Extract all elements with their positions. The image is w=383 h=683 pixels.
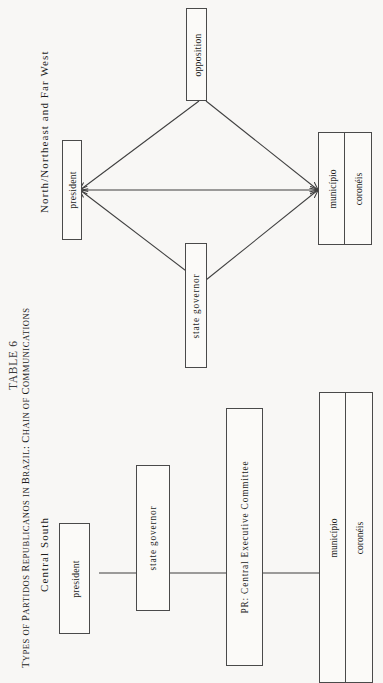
node-label: opposition [191, 33, 202, 76]
node-label: coronéis [353, 172, 364, 205]
edge-state-governor-municipio [206, 190, 318, 280]
title-seg-12: OMMUNICATIONS [21, 308, 31, 388]
node-cell-coroneis[interactable]: coronéis [345, 392, 373, 683]
node-cell-coroneis[interactable]: coronéis [344, 132, 372, 245]
section-label-central-south: Central South [39, 517, 50, 592]
section-label-north-northeast-far-west: North/Northeast and Far West [39, 50, 50, 213]
node-label: PR: Central Executive Committee [240, 460, 250, 613]
scanned-figure-page: TABLE 6 TYPES OF PARTIDOS REPUBLICANOS I… [0, 0, 383, 683]
figure-title: TYPES OF PARTIDOS REPUBLICANOS IN BRAZIL… [21, 308, 32, 668]
title-seg-1: T [20, 661, 31, 668]
node-label: state governor [148, 506, 158, 571]
title-seg-7: B [20, 477, 31, 484]
node-box-state-governor-central-south[interactable]: state governor [136, 465, 170, 611]
node-box-president-north[interactable]: president [62, 140, 82, 240]
title-seg-4: ARTIDOS [21, 572, 31, 615]
node-box-opposition[interactable]: opposition [186, 8, 207, 101]
edge-opposition-municipio [206, 101, 318, 190]
node-label: president [69, 560, 80, 597]
section-label-text: North/Northeast and Far West [38, 50, 50, 213]
title-seg-11: C [20, 387, 31, 394]
edge-president-state-governor [80, 190, 198, 280]
title-seg-2: YPES OF [21, 621, 31, 661]
title-seg-10: HAIN OF [21, 395, 31, 436]
node-label: município [327, 518, 338, 557]
node-box-pr-central-executive-committee[interactable]: PR: Central Executive Committee [226, 408, 263, 666]
node-box-municipio-coroneis-north[interactable]: município coronéis [318, 132, 372, 245]
edge-president-opposition [80, 101, 199, 190]
node-label: município [326, 169, 337, 208]
node-cell-municipio[interactable]: município [318, 132, 345, 245]
title-seg-8: RAZIL [21, 449, 31, 477]
node-cell-municipio[interactable]: município [319, 392, 346, 683]
node-box-state-governor-north[interactable]: state governor [185, 243, 207, 368]
title-seg-6: EPUBLICANOS IN [21, 484, 31, 564]
title-seg-3: P [20, 615, 31, 621]
table-number-caption: TABLE 6 [8, 340, 20, 390]
title-seg-5: R [20, 564, 31, 571]
title-seg-9: : C [20, 435, 31, 449]
section-label-text: Central South [38, 517, 50, 592]
node-box-president-central-south[interactable]: president [59, 523, 90, 634]
node-label: president [67, 171, 78, 208]
node-box-municipio-coroneis-central-south[interactable]: município coronéis [319, 392, 373, 683]
table-number-text: TABLE 6 [7, 340, 19, 390]
node-label: state governor [191, 273, 201, 338]
node-label: coronéis [354, 521, 365, 554]
